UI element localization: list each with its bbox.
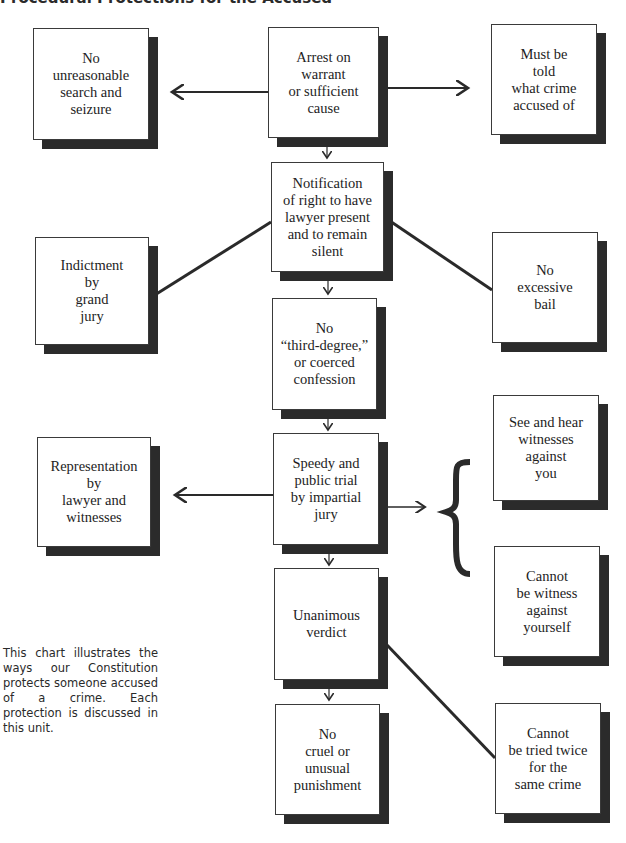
box-notification: Notification of right to have lawyer pre…: [271, 162, 384, 272]
line-to-double-jeopardy: [387, 645, 495, 758]
line-to-bail: [384, 217, 492, 290]
box-no-excessive-bail: No excessive bail: [492, 232, 598, 343]
box-no-unreasonable-search: No unreasonable search and seizure: [33, 28, 149, 140]
box-double-jeopardy: Cannot be tried twice for the same crime: [495, 703, 601, 814]
box-unanimous-verdict: Unanimous verdict: [274, 568, 379, 680]
box-arrest: Arrest on warrant or sufficient cause: [268, 27, 379, 138]
box-see-hear-witnesses: See and hear witnesses against you: [493, 395, 599, 501]
box-representation: Representation by lawyer and witnesses: [37, 437, 151, 547]
brace-icon: [446, 462, 470, 574]
box-told-crime: Must be told what crime accused of: [491, 24, 597, 135]
box-no-cruel-punishment: No cruel or unusual punishment: [275, 704, 380, 815]
box-not-witness-against-self: Cannot be witness against yourself: [494, 546, 600, 657]
chart-caption: This chart illustrates the ways our Cons…: [3, 646, 158, 736]
line-to-indictment: [150, 222, 271, 298]
box-speedy-trial: Speedy and public trial by impartial jur…: [273, 433, 379, 545]
box-indictment: Indictment by grand jury: [35, 237, 149, 345]
box-no-coerced-confession: No “third-degree,” or coerced confession: [272, 298, 377, 410]
